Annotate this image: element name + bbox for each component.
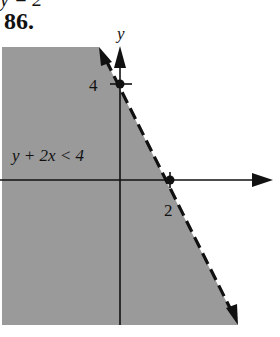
- inequality-graph: y 4 2 y + 2x < 4: [0, 0, 280, 337]
- point-x-intercept: [166, 176, 175, 185]
- x-intercept-label: 2: [164, 201, 173, 220]
- inequality-label: y + 2x < 4: [10, 146, 85, 165]
- x-axis-arrow-icon: [252, 173, 273, 187]
- y-axis-arrow-icon: [114, 46, 126, 68]
- y-intercept-label: 4: [89, 76, 98, 95]
- y-axis-label: y: [115, 24, 125, 43]
- boundary-arrow-top-icon: [99, 47, 112, 66]
- point-y-intercept: [116, 80, 125, 89]
